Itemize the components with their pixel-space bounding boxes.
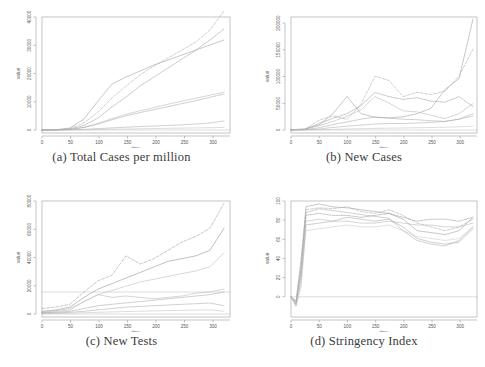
y-tick-label: 200000 [276,15,281,31]
y-tick-label: 80000 [27,194,32,207]
plot-border [291,201,477,317]
panel-a-plot: 0 50 100 150 200 250 300 time 0 [0,0,243,146]
series-line [42,40,224,130]
x-tick-label: 200 [400,140,408,145]
series-line [291,207,473,303]
x-axis-label: time [379,146,388,149]
panel-a-svg: 0 50 100 150 200 250 300 time 0 [0,0,243,148]
x-tick-label: 300 [456,324,464,329]
x-tick-label: 200 [400,324,408,329]
series-line [291,219,473,303]
y-tick-label: 60000 [27,222,32,235]
x-tick-label: 150 [124,324,132,329]
series-line [291,209,473,301]
plot-border [42,201,230,317]
figure-grid: 0 50 100 150 200 250 300 time 0 [0,0,485,367]
panel-d: 0 50 100 150 200 250 300 time [243,184,485,367]
panel-c-caption: (c) New Tests [0,334,243,349]
panel-b-series-group [291,19,473,130]
y-tick-label: 20000 [27,279,32,292]
y-tick-label: 100000 [276,68,281,84]
x-tick-label: 250 [181,324,189,329]
y-axis-label: value [16,67,21,79]
y-tick-label: 80 [276,217,281,223]
series-line [42,253,224,312]
series-line [42,289,224,313]
x-tick-label: 300 [456,140,464,145]
x-tick-label: 200 [152,324,160,329]
x-tick-label: 100 [95,140,103,145]
panel-a: 0 50 100 150 200 250 300 time 0 [0,0,243,184]
panel-c: 0 50 100 150 200 250 300 time 0 [0,184,243,367]
panel-b-plot: 0 50 100 150 200 250 300 time 0 [243,0,485,146]
series-line [42,29,224,130]
series-line [291,114,473,130]
y-tick-label: 0 [27,128,32,131]
y-tick-label: 40000 [27,10,32,23]
y-tick-label: 30000 [27,38,32,51]
x-tick-label: 0 [290,324,293,329]
panel-c-xaxis: 0 50 100 150 200 250 300 time [41,320,230,332]
y-tick-label: 150000 [276,42,281,58]
panel-d-plot: 0 50 100 150 200 250 300 time [243,184,485,330]
y-tick-label: 40 [276,255,281,261]
x-axis-label: time [379,330,388,333]
panel-a-caption: (a) Total Cases per million [0,150,243,165]
panel-c-plot: 0 50 100 150 200 250 300 time 0 [0,184,243,330]
series-line [291,225,473,306]
panel-a-yaxis: 0 10000 20000 30000 40000 value [16,10,36,131]
x-tick-label: 0 [290,140,293,145]
x-tick-label: 50 [317,140,323,145]
series-line [291,97,473,130]
panel-a-series-group [42,11,224,130]
plot-border [291,17,477,133]
x-tick-label: 50 [317,324,323,329]
panel-d-caption: (d) Stringency Index [243,334,485,349]
series-line [42,94,224,130]
panel-d-series-group [291,204,473,306]
series-line [42,92,224,130]
x-tick-label: 150 [124,140,132,145]
panel-d-svg: 0 50 100 150 200 250 300 time [243,184,485,332]
panel-b-caption: (b) New Cases [243,150,485,165]
panel-b: 0 50 100 150 200 250 300 time 0 [243,0,485,184]
x-tick-label: 100 [95,324,103,329]
x-tick-label: 250 [181,140,189,145]
x-tick-label: 0 [41,324,44,329]
x-tick-label: 200 [152,140,160,145]
x-tick-label: 50 [68,140,74,145]
x-tick-label: 300 [209,140,217,145]
x-tick-label: 100 [344,324,352,329]
panel-c-svg: 0 50 100 150 200 250 300 time 0 [0,184,243,332]
panel-b-xaxis: 0 50 100 150 200 250 300 time [290,136,477,148]
series-line [42,203,224,308]
panel-d-xaxis: 0 50 100 150 200 250 300 time [290,320,477,332]
y-tick-label: 0 [27,312,32,315]
panel-c-series-group [42,203,224,313]
x-tick-label: 300 [209,324,217,329]
series-line [42,310,224,314]
series-line [291,93,473,130]
x-tick-label: 50 [68,324,74,329]
y-tick-label: 100 [276,197,281,205]
panel-b-yaxis: 0 50000 100000 150000 200000 value [265,15,285,131]
y-axis-label: value [265,70,270,82]
y-tick-label: 10000 [27,95,32,108]
panel-b-svg: 0 50 100 150 200 250 300 time 0 [243,0,485,148]
y-tick-label: 0 [276,128,281,131]
x-axis-label: time [131,330,140,333]
y-tick-label: 20 [276,275,281,281]
y-axis-label: value [265,252,270,264]
x-tick-label: 100 [344,140,352,145]
y-axis-label: value [16,251,21,263]
x-tick-label: 0 [41,140,44,145]
series-line [291,19,473,130]
y-tick-label: 50000 [276,96,281,109]
plot-border [42,17,230,133]
panel-d-yaxis: 0 20 40 60 80 100 value [265,197,285,298]
y-tick-label: 60 [276,236,281,242]
y-tick-label: 40000 [27,251,32,264]
x-tick-label: 250 [428,140,436,145]
x-tick-label: 150 [372,324,380,329]
x-axis-label: time [131,146,140,149]
